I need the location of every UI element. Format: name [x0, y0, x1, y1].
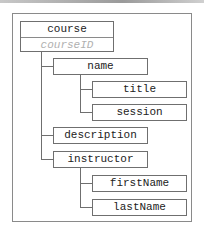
connector-description: [41, 135, 53, 136]
node-course-key: courseID: [21, 37, 113, 53]
connector-firstname: [80, 183, 92, 184]
connector-name-trunk: [80, 74, 81, 112]
node-description-label: description: [54, 128, 147, 143]
connector-instructor: [41, 159, 53, 160]
node-name-label: name: [54, 59, 147, 74]
node-lastname-label: lastName: [93, 200, 186, 215]
connector-instructor-trunk: [80, 168, 81, 208]
connector-lastname: [80, 207, 92, 208]
node-name: name: [53, 58, 148, 75]
node-session-label: session: [93, 105, 186, 120]
connector-title: [80, 89, 92, 90]
connector-session: [80, 112, 92, 113]
node-course-label: course: [21, 22, 113, 37]
node-firstname-label: firstName: [93, 176, 186, 191]
node-instructor: instructor: [53, 151, 148, 168]
node-title-label: title: [93, 82, 186, 97]
node-course: course courseID: [20, 21, 114, 52]
node-title: title: [92, 81, 187, 98]
node-lastname: lastName: [92, 199, 187, 216]
node-firstname: firstName: [92, 175, 187, 192]
node-session: session: [92, 104, 187, 121]
connector-trunk: [41, 51, 42, 160]
top-border: [0, 0, 204, 3]
node-instructor-label: instructor: [54, 152, 147, 167]
node-description: description: [53, 127, 148, 144]
connector-name: [41, 66, 53, 67]
